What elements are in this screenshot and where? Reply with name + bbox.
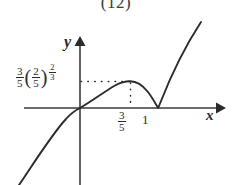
x-axis-label: x (206, 107, 214, 124)
coefficient-fraction: 3 5 (16, 66, 24, 89)
open-paren: ( (24, 67, 33, 87)
coefficient-denominator: 5 (16, 77, 24, 89)
base-numerator: 2 (32, 66, 40, 77)
base-denominator: 5 (32, 77, 40, 89)
y-value-label: 3 5 ( 2 5 ) 2 3 (16, 66, 56, 89)
plot-canvas (0, 0, 232, 185)
x-tick-label-one: 1 (142, 112, 149, 128)
x-tick-numerator: 3 (118, 110, 126, 121)
function-curve (17, 22, 201, 185)
y-axis-label: y (64, 33, 71, 51)
coefficient-numerator: 3 (16, 66, 24, 77)
x-tick-fraction: 3 5 (118, 110, 126, 133)
base-fraction: 2 5 (32, 66, 40, 89)
y-axis-arrowhead (75, 36, 86, 46)
exponent: 2 3 (49, 63, 55, 81)
x-axis-arrowhead (216, 103, 226, 114)
exponent-fraction: 2 3 (49, 63, 55, 81)
x-tick-label-three-fifths: 3 5 (118, 110, 126, 133)
exponent-numerator: 2 (49, 63, 55, 72)
exponent-denominator: 3 (49, 72, 55, 82)
close-paren: ) (40, 67, 49, 87)
math-figure: (12) y x 3 5 ( 2 5 ) 2 (0, 0, 232, 185)
x-tick-denominator: 5 (118, 121, 126, 133)
